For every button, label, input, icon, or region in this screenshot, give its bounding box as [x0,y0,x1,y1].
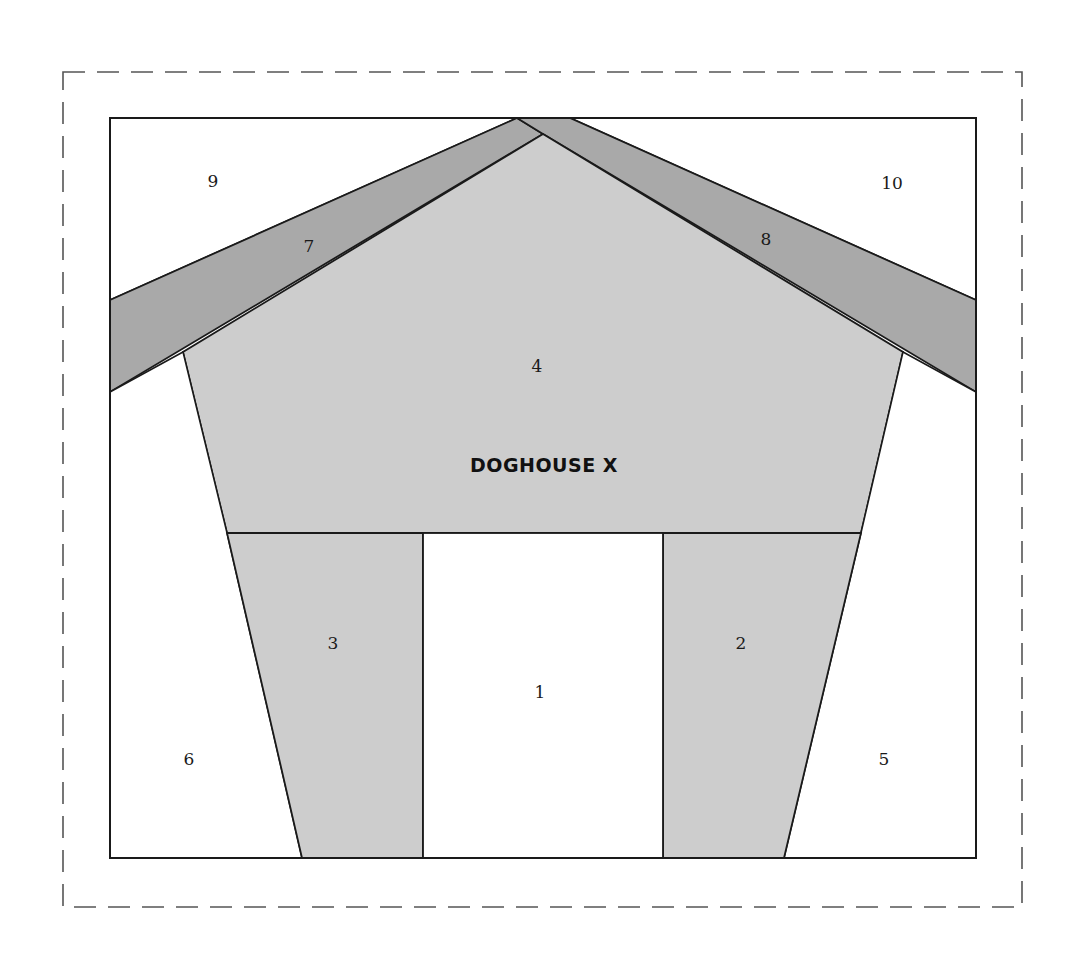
label-piece-6: 6 [184,749,195,769]
doghouse-pattern-diagram: 1 2 3 4 5 6 7 8 9 10 DOGHOUSE X [0,0,1083,976]
label-piece-4: 4 [532,356,543,376]
label-piece-7: 7 [304,236,315,256]
label-piece-2: 2 [736,633,747,653]
label-piece-5: 5 [879,749,890,769]
label-piece-8: 8 [761,229,772,249]
label-piece-3: 3 [328,633,339,653]
label-piece-9: 9 [208,171,219,191]
diagram-title: DOGHOUSE X [470,454,618,476]
label-piece-10: 10 [881,173,903,193]
label-piece-1: 1 [535,682,546,702]
